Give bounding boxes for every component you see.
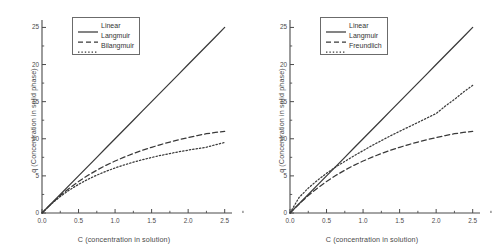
legend-item-langmuir[interactable]: Langmuir — [325, 31, 382, 41]
x-tick-label: 0.5 — [67, 217, 91, 224]
series-line-bilangmuir — [42, 142, 225, 213]
x-axis-title-left: C (concentration in solution) — [0, 235, 248, 244]
y-tick-label: 5 — [23, 172, 39, 179]
x-axis-title-right: C (concentration in solution) — [248, 235, 496, 244]
x-tick-label: 2.0 — [424, 217, 448, 224]
x-tick-label: 2.0 — [176, 217, 200, 224]
series-line-langmuir — [290, 131, 473, 213]
legend-label: Langmuir — [347, 31, 378, 41]
legend-swatch-solid-icon — [77, 22, 99, 30]
x-tick-label: 1.0 — [351, 217, 375, 224]
y-tick-label: 10 — [23, 135, 39, 142]
x-tick-label: 1.5 — [388, 217, 412, 224]
legend-swatch-dashed-icon — [325, 32, 347, 40]
y-tick-label: 0 — [271, 209, 287, 216]
legend-swatch-dotted-icon — [77, 42, 99, 50]
legend-item-langmuir[interactable]: Langmuir — [77, 31, 134, 41]
x-tick-label: 1.5 — [140, 217, 164, 224]
x-tick-label: 0.0 — [30, 217, 54, 224]
y-tick-label: 0 — [23, 209, 39, 216]
y-tick-label: 10 — [271, 135, 287, 142]
y-tick-label: 20 — [23, 61, 39, 68]
y-axis-title-left: q (Concentration in solid phase) — [29, 26, 38, 216]
y-tick-label: 20 — [271, 61, 287, 68]
series-line-langmuir — [42, 131, 225, 213]
series-line-freundlich — [290, 85, 473, 213]
y-tick-label: 15 — [271, 98, 287, 105]
legend-swatch-dotted-icon — [325, 42, 347, 50]
legend-left: LinearLangmuirBilangmuir — [72, 17, 140, 55]
legend-item-freundlich[interactable]: Freundlich — [325, 41, 382, 51]
x-tick-label: 0.0 — [278, 217, 302, 224]
y-axis-title-right: q (Concentration in solid phase) — [277, 26, 286, 216]
x-tick-label: 2.5 — [213, 217, 237, 224]
legend-label: Linear — [347, 21, 368, 31]
legend-right: LinearLangmuirFreundlich — [320, 17, 388, 55]
x-tick-label: 2.5 — [461, 217, 485, 224]
legend-item-linear[interactable]: Linear — [325, 21, 382, 31]
y-tick-label: 25 — [271, 23, 287, 30]
legend-item-linear[interactable]: Linear — [77, 21, 134, 31]
y-tick-label: 15 — [23, 98, 39, 105]
series-line-linear — [42, 27, 225, 213]
legend-label: Freundlich — [347, 41, 382, 51]
legend-item-bilangmuir[interactable]: Bilangmuir — [77, 41, 134, 51]
chart-panel-left: C (concentration in solution) q (Concent… — [0, 0, 248, 250]
legend-swatch-dashed-icon — [77, 32, 99, 40]
chart-panel-right: C (concentration in solution) q (Concent… — [248, 0, 496, 250]
legend-swatch-solid-icon — [325, 22, 347, 30]
series-line-linear — [290, 27, 473, 213]
legend-label: Bilangmuir — [99, 41, 134, 51]
y-tick-label: 5 — [271, 172, 287, 179]
x-tick-label: 1.0 — [103, 217, 127, 224]
legend-label: Linear — [99, 21, 120, 31]
two-panel-isotherm-figure: C (concentration in solution) q (Concent… — [0, 0, 496, 250]
legend-label: Langmuir — [99, 31, 130, 41]
y-tick-label: 25 — [23, 23, 39, 30]
x-tick-label: 0.5 — [315, 217, 339, 224]
